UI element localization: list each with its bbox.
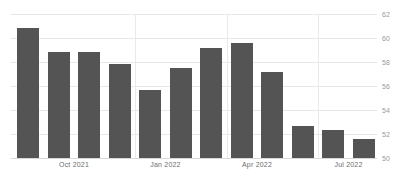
x-tick-label: Jul 2022 [334,161,362,168]
bar[interactable] [353,139,375,158]
x-tick-label: Jan 2022 [150,161,180,168]
bar[interactable] [109,64,131,158]
y-tick-label: 60 [382,35,390,42]
bar[interactable] [200,48,222,158]
gridline-x [227,14,228,158]
y-tick-label: 54 [382,107,390,114]
gridline-y-62 [11,14,377,15]
y-tick-label: 52 [382,131,390,138]
y-tick-label: 58 [382,59,390,66]
bar[interactable] [139,90,161,158]
bar[interactable] [78,52,100,158]
bar[interactable] [48,52,70,158]
bar[interactable] [322,130,344,158]
bar[interactable] [231,43,253,158]
y-tick-label: 56 [382,83,390,90]
x-tick-label: Apr 2022 [242,161,272,168]
bar[interactable] [261,72,283,158]
gridline-x [318,14,319,158]
bar[interactable] [17,28,39,158]
x-tick-label: Oct 2021 [59,161,89,168]
y-tick-label: 62 [382,11,390,18]
gridline-y-60 [11,38,377,39]
gridline-x [135,14,136,158]
bar-chart: 50525456586062 Oct 2021Jan 2022Apr 2022J… [0,0,404,179]
bar[interactable] [170,68,192,158]
gridline-y-50 [11,158,377,159]
plot-area [11,14,377,158]
bar[interactable] [292,126,314,158]
y-tick-label: 50 [382,155,390,162]
